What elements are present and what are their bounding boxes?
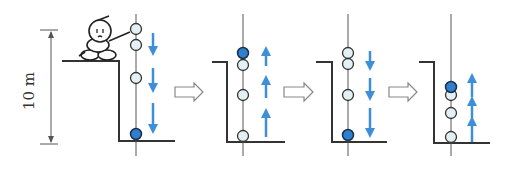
ball-highlighted [238,48,249,59]
ball-highlighted [343,130,354,141]
ball [131,73,142,84]
ball [238,131,249,142]
person-figure [79,16,130,60]
cliff-outline [212,62,285,142]
ball-highlighted [131,129,142,140]
ball [238,90,249,101]
height-dimension [40,30,58,144]
panel-4 [419,14,490,156]
bounce-diagram [0,0,520,173]
transition-arrow-2 [284,83,313,101]
transition-arrow-3 [389,83,417,101]
cliff-outline [419,62,490,143]
ball [131,40,142,51]
panel-3 [316,14,387,156]
transition-arrow-1 [175,83,203,101]
cliff-outline [62,61,175,141]
ball-highlighted [446,82,457,93]
ball [343,59,354,70]
height-label: 10 m [20,72,38,110]
ball [446,108,457,119]
panel-2 [212,14,285,156]
ball [238,60,249,71]
ball [343,90,354,101]
ball [446,132,457,143]
ball [343,48,354,59]
ball [131,24,142,35]
panel-1 [62,14,175,156]
